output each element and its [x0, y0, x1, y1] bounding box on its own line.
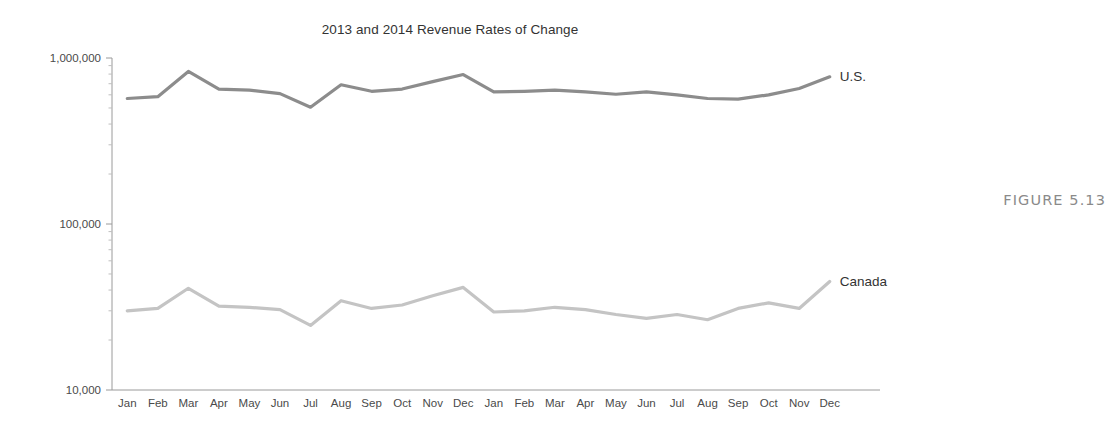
x-tick-label: Mar [545, 397, 565, 409]
figure-caption: FIGURE 5.13 [1003, 192, 1106, 208]
x-tick-label: Dec [453, 397, 474, 409]
figure-root: 2013 and 2014 Revenue Rates of Change 1,… [0, 0, 1112, 437]
series-label-us: U.S. [840, 69, 866, 84]
x-tick-label: Apr [210, 397, 228, 409]
x-tick-label: Jul [670, 397, 685, 409]
series-inline-labels: U.S.Canada [840, 69, 888, 289]
y-axis-ticks [106, 58, 112, 390]
y-tick-label: 1,000,000 [50, 52, 101, 64]
series-line-canada [127, 282, 829, 326]
chart-container: 2013 and 2014 Revenue Rates of Change 1,… [0, 0, 900, 437]
x-tick-label: Jun [271, 397, 290, 409]
x-tick-label: Aug [331, 397, 351, 409]
x-tick-label: Jul [303, 397, 318, 409]
x-tick-label: Sep [728, 397, 748, 409]
x-tick-label: Jan [118, 397, 137, 409]
x-tick-label: May [605, 397, 627, 409]
x-tick-label: Mar [178, 397, 198, 409]
series-label-canada: Canada [840, 274, 888, 289]
x-tick-label: Aug [697, 397, 717, 409]
x-tick-label: Dec [820, 397, 841, 409]
x-tick-label: Feb [148, 397, 168, 409]
x-tick-label: Nov [789, 397, 810, 409]
x-tick-label: May [239, 397, 261, 409]
x-tick-label: Nov [422, 397, 443, 409]
line-chart-plot: 1,000,000100,00010,000 JanFebMarAprMayJu… [0, 0, 900, 437]
x-tick-label: Jun [637, 397, 656, 409]
x-tick-label: Apr [576, 397, 594, 409]
series-lines [127, 71, 829, 325]
x-tick-label: Jan [484, 397, 503, 409]
y-tick-label: 100,000 [59, 218, 101, 230]
series-line-us [127, 71, 829, 107]
x-tick-label: Oct [760, 397, 779, 409]
x-axis-tick-labels: JanFebMarAprMayJunJulAugSepOctNovDecJanF… [118, 397, 840, 409]
x-tick-label: Feb [514, 397, 534, 409]
x-tick-label: Oct [393, 397, 412, 409]
y-tick-label: 10,000 [66, 384, 101, 396]
x-tick-label: Sep [361, 397, 381, 409]
y-axis-tick-labels: 1,000,000100,00010,000 [50, 52, 101, 396]
